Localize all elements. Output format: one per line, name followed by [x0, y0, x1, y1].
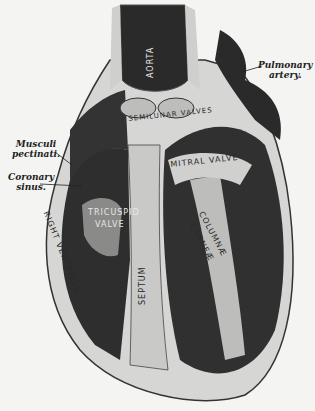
heart-illustration: Pulmonary artery. Musculi pectinati. Cor…: [0, 0, 315, 411]
callout-line: sinus.: [8, 182, 54, 192]
septum-label: SEPTUM: [138, 266, 147, 305]
callout-line: pectinati.: [12, 149, 60, 159]
pulmonary-artery-label: Pulmonary artery.: [258, 60, 313, 80]
tricuspid-valve-label-1: TRICUSPID: [88, 208, 140, 217]
tricuspid-valve-label-2: VALVE: [95, 220, 125, 229]
coronary-sinus-label: Coronary sinus.: [8, 172, 54, 192]
callout-line: Musculi: [12, 139, 60, 149]
callout-line: Pulmonary: [258, 60, 313, 70]
musculi-pectinati-label: Musculi pectinati.: [12, 139, 60, 159]
callout-line: artery.: [258, 70, 313, 80]
aorta-label: AORTA: [146, 47, 155, 78]
callout-line: Coronary: [8, 172, 54, 182]
